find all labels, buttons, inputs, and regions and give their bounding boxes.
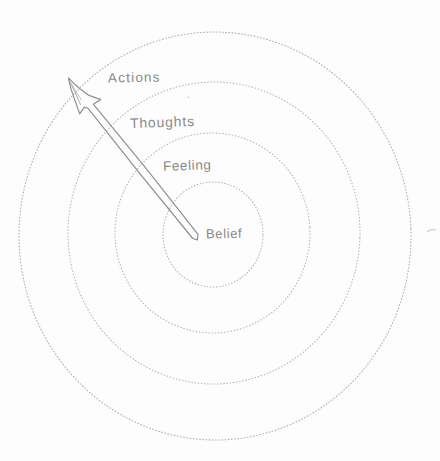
- ring-label-feeling: Feeling: [163, 157, 212, 174]
- ring-label-belief: Belief: [206, 226, 242, 242]
- pencil-smudge: [428, 230, 436, 232]
- ring-label-thoughts: Thoughts: [130, 113, 195, 131]
- pencil-dot: [188, 97, 190, 99]
- ring-label-actions: Actions: [108, 70, 161, 86]
- concentric-diagram: Actions Thoughts Feeling Belief: [0, 0, 440, 461]
